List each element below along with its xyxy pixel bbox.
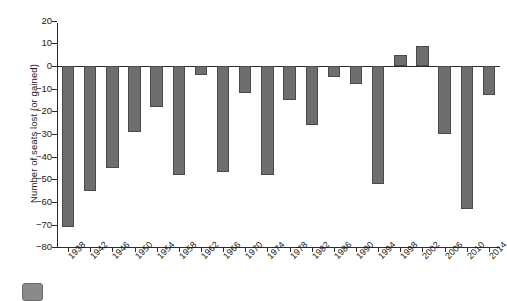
- x-tick-label: 1998: [398, 240, 420, 262]
- y-tick-label: −40: [26, 152, 52, 162]
- y-tick-label: 0: [26, 61, 52, 71]
- bar: [283, 66, 295, 100]
- y-tick-label: −30: [26, 129, 52, 139]
- bar: [372, 66, 384, 184]
- y-tick-label: 10: [26, 38, 52, 48]
- bar: [438, 66, 450, 134]
- x-tick-label: 1970: [243, 240, 265, 262]
- y-axis-tick-labels: 20100−10−20−30−40−50−60−70−80: [24, 0, 52, 295]
- bar: [84, 66, 96, 191]
- x-tick-label: 1938: [66, 240, 88, 262]
- y-tick-label: −70: [26, 220, 52, 230]
- x-tick-label: 2010: [465, 240, 487, 262]
- x-tick-label: 1990: [354, 240, 376, 262]
- bar: [239, 66, 251, 93]
- bar: [261, 66, 273, 175]
- x-tick-label: 1986: [332, 240, 354, 262]
- x-tick-label: 1950: [133, 240, 155, 262]
- bar: [416, 46, 428, 66]
- x-tick-label: 1958: [177, 240, 199, 262]
- y-tick-label: −10: [26, 84, 52, 94]
- y-tick-label: 20: [26, 16, 52, 26]
- y-tick-label: −50: [26, 174, 52, 184]
- footer-swatch: [22, 283, 43, 301]
- bar: [173, 66, 185, 175]
- y-axis-line: [57, 23, 58, 248]
- bar: [394, 55, 406, 66]
- y-tick-label: −20: [26, 106, 52, 116]
- x-tick-label: 1982: [310, 240, 332, 262]
- y-tick-label: −60: [26, 197, 52, 207]
- x-tick-label: 1954: [155, 240, 177, 262]
- bar: [150, 66, 162, 107]
- x-tick-label: 1962: [199, 240, 221, 262]
- x-tick-label: 2006: [443, 240, 465, 262]
- y-tick-label: −80: [26, 242, 52, 252]
- bar: [217, 66, 229, 172]
- bar: [483, 66, 495, 95]
- bar: [62, 66, 74, 227]
- bar: [128, 66, 140, 132]
- x-tick-label: 1978: [288, 240, 310, 262]
- x-tick-label: 2002: [420, 240, 442, 262]
- x-tick-label: 1974: [265, 240, 287, 262]
- x-tick-label: 1966: [221, 240, 243, 262]
- zero-baseline: [57, 66, 500, 67]
- bar: [350, 66, 362, 84]
- bar: [306, 66, 318, 125]
- x-tick-label: 1946: [110, 240, 132, 262]
- bar: [328, 66, 340, 77]
- x-tick-label: 1942: [88, 240, 110, 262]
- bar: [195, 66, 207, 75]
- bar: [106, 66, 118, 168]
- x-tick-label: 1994: [376, 240, 398, 262]
- bar: [461, 66, 473, 209]
- x-tick-label: 2014: [487, 240, 507, 262]
